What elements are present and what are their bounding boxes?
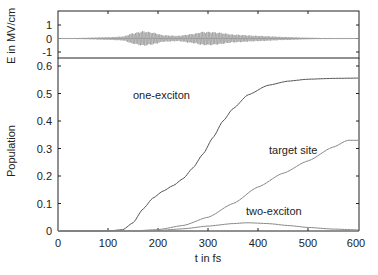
xtick-label: 600 (347, 237, 365, 249)
field-ytick-label: 0 (46, 33, 52, 45)
field-ylabel: E in MV/cm (5, 8, 17, 64)
field-ytick-label: 1 (46, 19, 52, 31)
population-panel: 0 0.1 0.2 0.3 0.4 0.5 0.6 0 100 200 300 … (37, 58, 365, 249)
ytick-label: 0.4 (37, 115, 52, 127)
figure: 1 0 -1 0 0.1 0.2 0.3 0.4 0.5 0.6 0 100 2… (0, 0, 378, 275)
xlabel: t in fs (195, 252, 222, 264)
field-yticks (58, 11, 359, 52)
population-ylabel: Population (5, 125, 17, 177)
xtick-label: 100 (99, 237, 117, 249)
population-yticks (58, 66, 359, 204)
xtick-label: 500 (299, 237, 317, 249)
ytick-label: 0.2 (37, 170, 52, 182)
two-exciton-annotation: two-exciton (246, 205, 302, 217)
ytick-label: 0.1 (37, 198, 52, 210)
ytick-label: 0 (46, 225, 52, 237)
one-exciton-annotation: one-exciton (133, 89, 190, 101)
ytick-label: 0.6 (37, 60, 52, 72)
target-site-annotation: target site (269, 144, 317, 156)
field-panel: 1 0 -1 (42, 11, 359, 58)
xtick-label: 0 (55, 237, 61, 249)
field-ytick-label: -1 (42, 46, 52, 58)
xtick-label: 400 (249, 237, 267, 249)
xtick-label: 200 (149, 237, 167, 249)
xtick-label: 300 (199, 237, 217, 249)
ytick-label: 0.3 (37, 143, 52, 155)
ytick-label: 0.5 (37, 88, 52, 100)
